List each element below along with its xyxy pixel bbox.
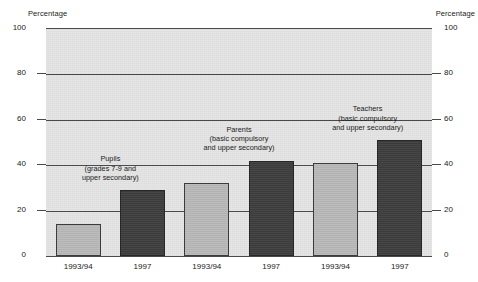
y-tick-label-left-40: 40	[0, 160, 26, 168]
y-axis-title-left: Percentage	[28, 9, 67, 18]
y-tick-label-right-0: 0	[444, 251, 478, 259]
y-tick-label-left-20: 20	[0, 206, 26, 214]
gridline-80	[46, 74, 432, 75]
y-tick-label-right-100: 100	[444, 24, 478, 32]
group-annotation-line: (basic compulsory	[159, 134, 319, 143]
y-tick-label-left-100: 100	[0, 24, 26, 32]
y-tick-mark-left-60	[37, 119, 46, 120]
bar-parents-1997	[249, 161, 294, 256]
y-tick-label-left-80: 80	[0, 69, 26, 77]
group-annotation-line: and upper secondary)	[159, 143, 319, 152]
bar-texture	[250, 162, 293, 255]
group-annotation-line: Teachers	[288, 104, 448, 113]
y-tick-mark-left-20	[37, 210, 46, 211]
bar-texture	[57, 225, 100, 255]
bar-texture	[121, 191, 164, 255]
bar-pupils-1997	[120, 190, 165, 256]
plot-area: Pupils(grades 7-9 andupper secondary)Par…	[46, 28, 432, 257]
y-tick-mark-left-80	[37, 73, 46, 74]
group-annotation-teachers: Teachers(basic compulsoryand upper secon…	[288, 104, 448, 132]
bar-teachers-1993-94	[313, 163, 358, 256]
group-annotation-line: and upper secondary)	[288, 123, 448, 132]
y-tick-label-left-0: 0	[0, 251, 26, 259]
gridline-20	[46, 211, 432, 212]
bar-chart: Percentage Percentage Pupils(grades 7-9 …	[0, 0, 478, 282]
bar-teachers-1997	[377, 140, 422, 256]
y-tick-label-left-60: 60	[0, 115, 26, 123]
y-tick-label-right-40: 40	[444, 160, 478, 168]
y-axis-title-right: Percentage	[436, 9, 475, 18]
group-annotation-line: Pupils	[30, 154, 190, 163]
y-tick-mark-right-80	[432, 73, 441, 74]
group-annotation-line: upper secondary)	[30, 173, 190, 182]
y-tick-label-right-20: 20	[444, 206, 478, 214]
y-tick-mark-left-40	[37, 164, 46, 165]
group-annotation-line: (grades 7-9 and	[30, 164, 190, 173]
bar-texture	[185, 184, 228, 255]
bar-texture	[378, 141, 421, 255]
group-annotation-line: (basic compulsory	[288, 114, 448, 123]
bar-parents-1993-94	[184, 183, 229, 256]
y-tick-label-right-80: 80	[444, 69, 478, 77]
bar-pupils-1993-94	[56, 224, 101, 256]
x-tick-label-teachers-1997: 1997	[360, 262, 440, 271]
group-annotation-pupils: Pupils(grades 7-9 andupper secondary)	[30, 154, 190, 182]
y-tick-mark-right-40	[432, 164, 441, 165]
y-tick-label-right-60: 60	[444, 115, 478, 123]
y-tick-mark-right-60	[432, 119, 441, 120]
y-tick-mark-right-20	[432, 210, 441, 211]
bar-texture	[314, 164, 357, 255]
